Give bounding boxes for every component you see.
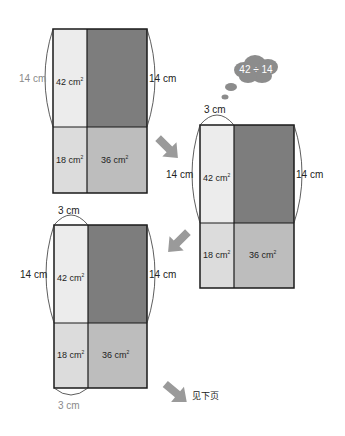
left-height-label: 14 cm	[19, 73, 46, 84]
dark-block	[88, 225, 147, 323]
figure-2: 42 ÷ 14 3 cm 14 cm 14 cm 42 cm2 18 cm2 3…	[166, 55, 323, 288]
thought-bubble-small	[222, 95, 229, 100]
arrow-down-left-icon	[161, 225, 195, 259]
bottom-width-arc	[54, 388, 88, 395]
arrow-down-right-icon	[151, 131, 185, 165]
area-42-label: 42 cm2	[203, 172, 231, 183]
area-42-label: 42 cm2	[56, 76, 84, 87]
thought-bubble-large	[225, 83, 237, 91]
top-width-arc	[54, 215, 88, 225]
left-height-label: 14 cm	[20, 269, 47, 280]
top-width-label: 3 cm	[204, 104, 226, 115]
area-18-label: 18 cm2	[203, 249, 231, 260]
left-height-label: 14 cm	[166, 169, 193, 180]
right-height-label: 14 cm	[149, 269, 176, 280]
area-diagram: 14 cm 14 cm 42 cm2 18 cm2 36 cm2 42 ÷ 14	[0, 0, 345, 436]
top-width-arc	[200, 115, 234, 125]
area-18-label: 18 cm2	[56, 154, 84, 165]
area-36-label: 36 cm2	[249, 249, 277, 260]
dark-block	[234, 125, 294, 223]
right-height-label: 14 cm	[296, 169, 323, 180]
arrow-continue-icon	[159, 376, 193, 409]
thought-cloud: 42 ÷ 14	[222, 55, 279, 100]
area-18-label: 18 cm2	[57, 349, 85, 360]
figure-3: 3 cm 3 cm 14 cm 14 cm 42 cm2 18 cm2 36 c…	[20, 205, 176, 411]
area-36-label: 36 cm2	[101, 154, 129, 165]
figure-1: 14 cm 14 cm 42 cm2 18 cm2 36 cm2	[19, 29, 176, 193]
right-height-label: 14 cm	[149, 73, 176, 84]
top-width-label: 3 cm	[58, 205, 80, 216]
dark-block	[87, 29, 147, 127]
thought-text: 42 ÷ 14	[239, 64, 273, 75]
bottom-width-label: 3 cm	[58, 400, 80, 411]
area-36-label: 36 cm2	[102, 349, 130, 360]
area-42-label: 42 cm2	[57, 272, 85, 283]
continue-next-page-label: 见下页	[192, 391, 219, 401]
